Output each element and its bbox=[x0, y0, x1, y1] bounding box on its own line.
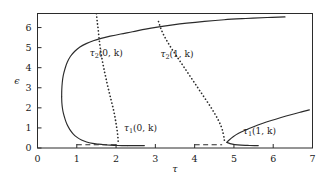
x-tick-label-4: 4 bbox=[192, 153, 198, 164]
plot-canvas: 01234567 0123456 τ2(0, k)τ2(1, k)τ1(0, k… bbox=[0, 0, 324, 176]
x-tick-label-0: 0 bbox=[34, 153, 40, 164]
tau2-1k-label: τ2(1, k) bbox=[160, 49, 193, 61]
x-tick-label-5: 5 bbox=[231, 153, 237, 164]
y-tick-label-2: 2 bbox=[25, 102, 31, 113]
curve-tau2-0-k bbox=[96, 14, 118, 144]
curve-annotation-labels: τ2(0, k)τ2(1, k)τ1(0, k)τ1(1, k) bbox=[90, 48, 276, 138]
tau1-0k-label: τ1(0, k) bbox=[124, 123, 157, 135]
y-axis-title: ϵ bbox=[14, 75, 20, 86]
y-axis-tickmarks bbox=[38, 28, 42, 148]
tau2-0k-label: τ2(0, k) bbox=[90, 48, 123, 60]
tau1-1k-label: τ1(1, k) bbox=[243, 126, 276, 138]
y-tick-label-6: 6 bbox=[25, 22, 31, 33]
y-tick-label-5: 5 bbox=[25, 42, 31, 53]
y-tick-label-3: 3 bbox=[25, 82, 31, 93]
x-tick-label-3: 3 bbox=[152, 153, 158, 164]
x-tick-label-1: 1 bbox=[74, 153, 80, 164]
figure-container: 01234567 0123456 τ2(0, k)τ2(1, k)τ1(0, k… bbox=[0, 0, 324, 176]
x-tick-label-2: 2 bbox=[113, 153, 119, 164]
y-tick-label-4: 4 bbox=[25, 62, 31, 73]
curve-tau1-1-k-lower-fold-branch bbox=[227, 142, 258, 145]
y-axis-tick-labels: 0123456 bbox=[25, 22, 31, 153]
x-tick-label-6: 6 bbox=[270, 153, 276, 164]
curve-tau2-1-k bbox=[159, 22, 225, 143]
y-tick-label-1: 1 bbox=[25, 122, 31, 133]
x-tick-label-7: 7 bbox=[309, 153, 315, 164]
x-axis-title: τ bbox=[172, 163, 178, 174]
y-tick-label-0: 0 bbox=[25, 142, 31, 153]
